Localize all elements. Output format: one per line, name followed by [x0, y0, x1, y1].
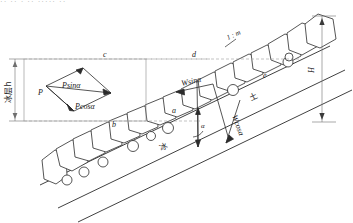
ice-piece	[62, 175, 72, 185]
point-label-b: b	[112, 120, 116, 129]
soil-label: 土	[247, 90, 259, 102]
height-label: H	[307, 66, 316, 74]
ice-slope-force-diagram: 冰层h P Psinα Pcosα	[0, 0, 353, 223]
ice-piece	[163, 123, 174, 134]
w-cos-alpha-label: Wcosα	[230, 114, 246, 138]
p-cos-alpha-label: Pcosα	[74, 102, 96, 111]
ice-piece	[228, 85, 239, 96]
point-label-e: e	[263, 71, 267, 80]
ice-piece	[128, 141, 139, 152]
riprap-block-group	[42, 14, 336, 184]
ice-piece	[98, 157, 108, 167]
p-force-label: P	[37, 88, 43, 97]
ice-label: 冰	[157, 140, 169, 152]
figure-canvas: ·· ·· · ·· ····· ··	[0, 0, 353, 223]
slope-ratio-label: 1 : m	[225, 28, 241, 41]
p-sin-alpha-label: Psinα	[61, 81, 81, 90]
ice-layer-label: 冰层h	[3, 81, 13, 102]
alpha-angle-label: α	[201, 122, 205, 130]
ice-piece	[147, 132, 156, 141]
riprap-block	[305, 14, 336, 48]
ice-piece	[285, 53, 293, 61]
point-label-d: d	[192, 50, 197, 59]
point-label-c: c	[103, 50, 107, 59]
ice-piece	[79, 167, 89, 177]
point-label-a: a	[172, 106, 176, 115]
